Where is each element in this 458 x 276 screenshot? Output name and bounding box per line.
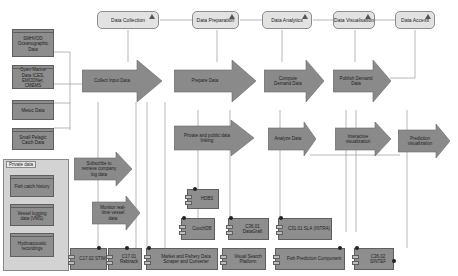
component-fish-prediction[interactable]: Fish Prediction Component: [275, 248, 345, 270]
connector-dot: [338, 246, 342, 250]
process-prepare[interactable]: Prepare Data: [174, 60, 256, 102]
port-icon: [185, 201, 192, 205]
port-icon: [273, 255, 280, 259]
private-hydroacoustic[interactable]: Hydroacoustic recordings: [10, 233, 54, 257]
stage-label: Data Analytics: [271, 17, 303, 23]
port-icon: [185, 195, 192, 199]
source-label: Fish catch history: [14, 184, 49, 189]
process-subscribe[interactable]: Subscribe to retrieve company log data: [74, 152, 132, 186]
port-icon: [106, 255, 113, 259]
stage-icon: [149, 14, 155, 19]
component-c36-02[interactable]: C36.02 SINTEF: [354, 248, 394, 270]
source-label: Open Marine Data ICES, EMODNet, CMEMS: [15, 67, 51, 89]
connector-dot: [193, 187, 197, 191]
component-c17-01[interactable]: C17.01 Rabtrack: [108, 248, 142, 270]
component-c36-01[interactable]: C36.01 DataGraft: [228, 218, 269, 240]
process-compute-demand[interactable]: Compute Demand Data: [264, 60, 324, 102]
port-icon: [179, 231, 186, 235]
port-icon: [144, 255, 151, 259]
stage-data-analytics[interactable]: Data Analytics: [262, 11, 312, 29]
source-label: Hydroacoustic recordings: [13, 241, 51, 252]
component-label: Fish Prediction Component: [287, 256, 341, 261]
connector-dot: [125, 246, 129, 250]
port-icon: [68, 261, 75, 265]
stage-icon: [302, 14, 308, 19]
connector-dot: [182, 216, 186, 220]
source-label: Small Pelagic Catch Data: [15, 135, 51, 146]
stage-data-collection[interactable]: Data Collection: [97, 11, 159, 29]
component-label: HDBS: [201, 196, 214, 201]
process-label: Compute Demand Data: [264, 60, 312, 102]
stage-icon: [229, 14, 235, 19]
connector-dot: [229, 216, 233, 220]
private-fish-catch[interactable]: Fish catch history: [10, 175, 54, 197]
connector-dot: [147, 246, 151, 250]
stage-label: Data Collection: [111, 17, 145, 23]
port-icon: [220, 261, 227, 265]
source-metoc[interactable]: Metoc Data: [12, 100, 54, 120]
process-interactive-vis[interactable]: Interactive visualization: [335, 122, 391, 156]
source-small-pelagic[interactable]: Small Pelagic Catch Data: [12, 128, 54, 150]
stage-data-access[interactable]: Data Access: [395, 11, 435, 29]
component-c17-02[interactable]: C17.02 STIM: [70, 248, 107, 270]
connector-dot: [355, 246, 359, 250]
process-label: Publish Demand Data: [333, 60, 379, 102]
port-icon: [106, 261, 113, 265]
component-label: C36.02 SINTEF: [363, 254, 393, 265]
port-icon: [276, 225, 283, 229]
process-prediction-vis[interactable]: Prediction visualization: [398, 124, 450, 158]
component-hdbs[interactable]: HDBS: [187, 189, 219, 209]
process-label: Prediction visualization: [398, 124, 442, 158]
port-icon: [68, 255, 75, 259]
port-icon: [226, 225, 233, 229]
port-icon: [276, 231, 283, 235]
process-analyze[interactable]: Analyze Data: [268, 122, 316, 156]
process-label: Private and public data linking: [174, 120, 240, 156]
process-monitor[interactable]: Monitor real-time vessel data: [92, 196, 140, 230]
stage-icon: [425, 14, 431, 19]
component-market-scraper[interactable]: Market and Fishery Data Scraper and Conv…: [146, 248, 218, 270]
source-smhi[interactable]: SMHI/OD Oceanographic Data: [12, 29, 54, 57]
component-label: C17.02 STIM: [79, 256, 106, 261]
port-icon: [179, 225, 186, 229]
private-vessel-logging[interactable]: Vessel logging data (VMS): [10, 204, 54, 226]
stage-data-preparation[interactable]: Data Preparation: [192, 11, 239, 29]
process-collect-input[interactable]: Collect Input Data: [82, 60, 162, 102]
port-icon: [220, 255, 227, 259]
source-label: SMHI/OD Oceanographic Data: [15, 36, 51, 52]
source-label: Vessel logging data (VMS): [13, 211, 51, 222]
component-label: C36.01 DataGraft: [237, 224, 268, 235]
component-label: C31.01 SLA (INTRA): [288, 226, 330, 231]
process-label: Analyze Data: [268, 122, 308, 156]
component-couchdb[interactable]: CouchDB: [181, 218, 215, 240]
component-c31-01[interactable]: C31.01 SLA (INTRA): [278, 218, 332, 240]
process-label: Subscribe to retrieve company log data: [74, 152, 124, 186]
component-label: Market and Fishery Data Scraper and Conv…: [155, 254, 217, 265]
connector-dot: [392, 259, 396, 263]
process-publish-demand[interactable]: Publish Demand Data: [333, 60, 391, 102]
process-label: Collect Input Data: [82, 60, 142, 102]
process-label: Prepare Data: [174, 60, 236, 102]
group-label: Private data: [6, 161, 36, 168]
port-icon: [226, 231, 233, 235]
port-icon: [273, 261, 280, 265]
component-visual-search[interactable]: Visual Search Platform: [222, 248, 266, 270]
process-label: Monitor real-time vessel data: [92, 196, 134, 230]
stage-icon: [365, 14, 371, 19]
stage-data-visualisation[interactable]: Data Visualisation: [333, 11, 375, 29]
source-label: Metoc Data: [21, 108, 44, 113]
process-private-public-linking[interactable]: Private and public data linking: [174, 120, 254, 156]
component-label: C17.01 Rabtrack: [117, 254, 141, 265]
connector-dot: [279, 216, 283, 220]
component-label: Visual Search Platform: [231, 254, 265, 265]
port-icon: [352, 255, 359, 259]
port-icon: [352, 261, 359, 265]
component-label: CouchDB: [192, 226, 211, 231]
source-open-marine[interactable]: Open Marine Data ICES, EMODNet, CMEMS: [12, 65, 54, 89]
process-label: Interactive visualization: [335, 122, 381, 156]
port-icon: [144, 261, 151, 265]
connector-dot: [97, 246, 101, 250]
